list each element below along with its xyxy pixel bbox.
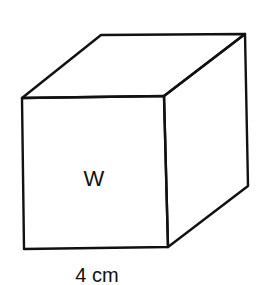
dimension-label: 4 cm — [75, 264, 118, 285]
cube-top-face — [22, 34, 245, 98]
face-label: W — [84, 166, 105, 191]
cube-right-face — [164, 34, 248, 247]
cube-diagram: W 4 cm — [0, 0, 262, 285]
